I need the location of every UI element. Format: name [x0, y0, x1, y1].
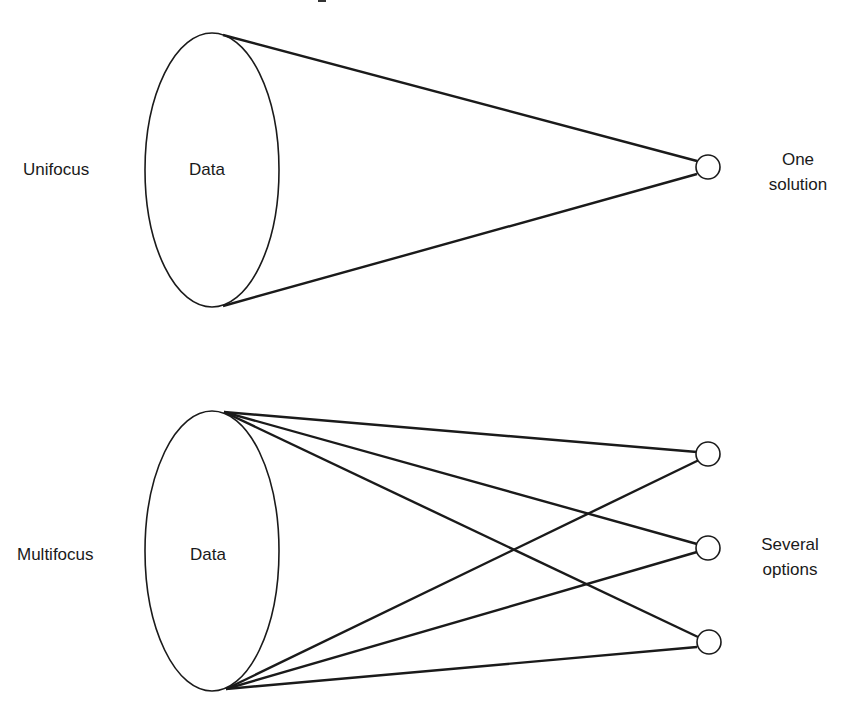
multifocus-label: Multifocus	[17, 543, 94, 567]
multifocus-outcome-line1: Several	[750, 533, 830, 557]
multifocus-data-label: Data	[190, 543, 226, 567]
unifocus-outcome-line2: solution	[758, 173, 838, 197]
multifocus-option-node-1	[696, 442, 720, 466]
multifocus-option-node-3	[697, 630, 721, 654]
diagram-graphics	[0, 0, 854, 706]
unifocus-outcome-line1: One	[758, 148, 838, 172]
multifocus-line-bottom-to-option-1	[226, 460, 699, 689]
multifocus-outcome-line2: options	[750, 558, 830, 582]
unifocus-cone-line-bottom	[223, 174, 697, 306]
unifocus-data-label: Data	[189, 158, 225, 182]
diagram-canvas: Unifocus Data One solution Multifocus Da…	[0, 0, 854, 706]
unifocus-cone-line-top	[223, 35, 697, 161]
unifocus-label: Unifocus	[23, 158, 89, 182]
unifocus-diagram	[145, 33, 720, 307]
multifocus-option-node-2	[696, 536, 720, 560]
cropped-text-fragment	[318, 0, 326, 2]
unifocus-solution-node	[696, 155, 720, 179]
multifocus-diagram	[145, 411, 721, 691]
